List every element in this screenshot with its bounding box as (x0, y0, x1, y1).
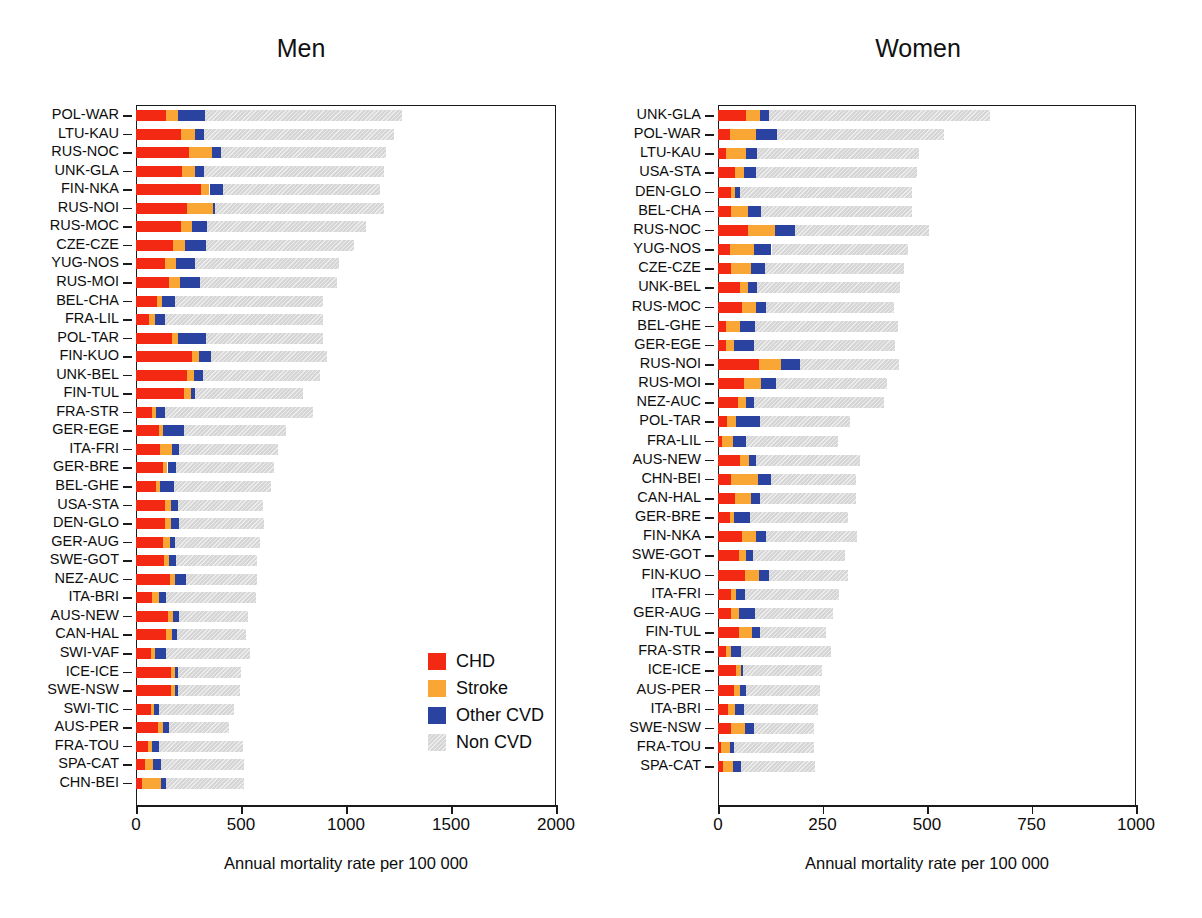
y-axis-tick (123, 523, 132, 525)
bar-segment-chd (718, 570, 745, 581)
y-axis-label: FIN-TUL (63, 387, 119, 398)
y-axis-label: FRA-STR (638, 645, 701, 656)
bar-segment-stroke (181, 129, 195, 140)
bar-segment-chd (136, 704, 151, 715)
bar-segment-stroke (735, 167, 744, 178)
y-axis-tick (705, 192, 714, 194)
bar-row (136, 370, 320, 381)
y-axis-label: FRA-LIL (65, 313, 119, 324)
y-axis-label: DEN-GLO (53, 517, 119, 528)
y-axis-label: BEL-CHA (638, 205, 701, 216)
bar-segment-chd (718, 685, 734, 696)
y-axis-tick (705, 287, 714, 289)
bar-segment-other (756, 531, 766, 542)
bar-segment-chd (136, 759, 145, 770)
y-axis-label: FRA-TOU (55, 740, 119, 751)
bar-segment-other (760, 110, 769, 121)
y-axis-label: CAN-HAL (637, 492, 701, 503)
bar-segment-other (168, 462, 176, 473)
y-axis-labels-women: UNK-GLAPOL-WARLTU-KAUUSA-STADEN-GLOBEL-C… (600, 105, 714, 805)
bar-segment-non (184, 425, 286, 436)
bar-segment-non (734, 742, 814, 753)
y-axis-label: FRA-STR (56, 406, 119, 417)
bar-segment-chd (718, 110, 746, 121)
bar-segment-chd (136, 741, 148, 752)
bar-segment-chd (718, 455, 740, 466)
bar-row (136, 555, 257, 566)
bar-row (718, 685, 820, 696)
y-axis-tick (705, 421, 714, 423)
legend-label-other-cvd: Other CVD (456, 704, 544, 726)
bar-segment-other (740, 685, 747, 696)
bar-row (718, 570, 848, 581)
y-axis-tick (123, 746, 132, 748)
bar-segment-non (195, 258, 339, 269)
bar-segment-other (156, 407, 165, 418)
bar-segment-non (179, 611, 248, 622)
y-axis-tick (705, 632, 714, 634)
y-axis-label: CHN-BEI (641, 473, 701, 484)
bar-segment-chd (136, 518, 165, 529)
y-axis-label: GER-AUG (633, 607, 701, 618)
y-axis-labels-men: POL-WARLTU-KAURUS-NOCUNK-GLAFIN-NKARUS-N… (0, 105, 132, 805)
bar-segment-non (741, 646, 830, 657)
bar-segment-non (760, 416, 850, 427)
bar-row (718, 340, 895, 351)
y-axis-tick (123, 542, 132, 544)
bar-segment-non (765, 263, 904, 274)
bar-segment-chd (718, 282, 740, 293)
bar-segment-chd (136, 110, 166, 121)
bar-segment-stroke (740, 455, 749, 466)
bar-segment-other (748, 282, 757, 293)
bar-row (136, 314, 323, 325)
x-axis-tick (136, 805, 138, 814)
y-axis-label: ITA-FRI (69, 443, 119, 454)
x-axis-tick-label: 2000 (516, 816, 596, 833)
x-axis-tick-label: 250 (783, 816, 863, 833)
y-axis-label: FRA-LIL (647, 435, 701, 446)
bar-row (136, 296, 323, 307)
bar-segment-non (203, 370, 320, 381)
bar-segment-other (754, 244, 772, 255)
x-axis-tick-label: 0 (678, 816, 758, 833)
y-axis-tick (705, 115, 714, 117)
y-axis-label: UNK-GLA (55, 165, 119, 176)
bar-segment-other (758, 474, 771, 485)
x-axis-title-women: Annual mortality rate per 100 000 (718, 855, 1136, 872)
bar-segment-chd (136, 685, 171, 696)
bar-segment-stroke (182, 166, 195, 177)
bar-segment-stroke (726, 340, 734, 351)
y-axis-label: LTU-KAU (640, 147, 701, 158)
y-axis-label: SWE-GOT (50, 554, 119, 565)
bar-segment-chd (136, 314, 149, 325)
bar-segment-other (178, 333, 206, 344)
y-axis-label: NEZ-AUC (55, 573, 119, 584)
y-axis-label: SWI-VAF (60, 647, 119, 658)
bar-segment-non (221, 147, 386, 158)
bar-segment-other (759, 570, 769, 581)
bar-segment-stroke (726, 321, 740, 332)
y-axis-tick (123, 226, 132, 228)
legend-swatch-chd-icon (428, 653, 446, 670)
bar-segment-chd (718, 244, 730, 255)
bar-segment-other (180, 277, 200, 288)
bar-segment-other (162, 296, 175, 307)
bar-row (718, 723, 814, 734)
bar-segment-chd (718, 167, 735, 178)
y-axis-tick (123, 579, 132, 581)
y-axis-label: FRA-TOU (637, 741, 701, 752)
bar-segment-chd (718, 531, 742, 542)
y-axis-label: GER-BRE (635, 511, 701, 522)
bar-segment-stroke (145, 759, 152, 770)
y-axis-label: RUS-MOC (50, 220, 119, 231)
bar-segment-stroke (160, 444, 172, 455)
bar-segment-stroke (742, 531, 755, 542)
bar-row (718, 531, 857, 542)
x-axis-tick-label: 500 (887, 816, 967, 833)
bar-segment-chd (136, 351, 192, 362)
bar-row (136, 277, 337, 288)
y-axis-tick (705, 670, 714, 672)
y-axis-tick (705, 536, 714, 538)
y-axis-tick (123, 301, 132, 303)
y-axis-tick (705, 728, 714, 730)
